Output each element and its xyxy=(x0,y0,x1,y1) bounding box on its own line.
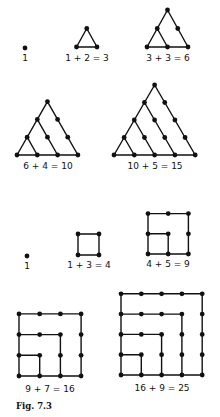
tri-15-dot xyxy=(162,100,167,105)
tri-6-dot xyxy=(145,45,150,50)
sq-9-dot xyxy=(146,211,151,216)
tri-15-dot xyxy=(142,100,147,105)
label-tri-1: 1 xyxy=(22,53,28,63)
label-tri-6: 3 + 3 = 6 xyxy=(146,53,190,63)
sq-25-dot xyxy=(139,291,144,296)
sq-9-dot xyxy=(146,252,151,257)
figure-caption: Fig. 7.3 xyxy=(16,401,52,411)
tri-10-diagonal-3 xyxy=(47,102,77,155)
sq-16-dot xyxy=(17,312,22,317)
sq-9-dot xyxy=(166,211,171,216)
sq-25-dot xyxy=(119,332,124,337)
tri-3-dot xyxy=(74,45,79,50)
tri-15-dot xyxy=(173,153,178,158)
label-tri-3: 1 + 2 = 3 xyxy=(65,53,109,63)
tri-3-diagonal-1 xyxy=(87,29,97,48)
tri-10-dot xyxy=(65,135,70,140)
sq-16-dot xyxy=(58,353,63,358)
sq-25-dot xyxy=(180,373,185,378)
tri-15-dot xyxy=(112,153,117,158)
tri-6-diagonal-1 xyxy=(157,29,167,48)
sq-9-dot xyxy=(166,231,171,236)
tri-15-dot xyxy=(193,153,198,158)
sq-25-dot xyxy=(139,352,144,357)
tri-6-dot xyxy=(186,45,191,50)
sq-25-dot xyxy=(159,332,164,337)
sq-16-dot xyxy=(37,312,42,317)
sq-16-dot xyxy=(37,353,42,358)
sq-25-dot xyxy=(200,332,205,337)
tri-10-dot xyxy=(55,117,60,122)
sq-16-dot xyxy=(79,332,84,337)
sq-25-dot xyxy=(159,352,164,357)
sq-25-dot xyxy=(180,291,185,296)
tri-10-dot xyxy=(45,99,50,104)
sq-16-dot xyxy=(58,374,63,379)
sq-9-dot xyxy=(186,252,191,257)
sq-16-dot xyxy=(37,374,42,379)
tri-3-dot xyxy=(95,45,100,50)
tri-15-dot xyxy=(162,135,167,140)
sq-25-dot xyxy=(180,312,185,317)
label-sq-16: 9 + 7 = 16 xyxy=(25,384,75,394)
sq-25-dot xyxy=(180,332,185,337)
sq-16-dot xyxy=(17,374,22,379)
sq-4-dot xyxy=(97,232,102,237)
tri-15-dot xyxy=(132,153,137,158)
figure-canvas: 1 1 + 2 = 3 3 + 3 = 6 6 + 4 = 10 10 + 5 … xyxy=(0,0,220,417)
sq-4-dot xyxy=(76,232,81,237)
tri-10-dot xyxy=(35,153,40,158)
sq-25-dot xyxy=(139,312,144,317)
tri-10-dot xyxy=(76,153,81,158)
tri-10-dot xyxy=(45,135,50,140)
tri-15-diagonal-3 xyxy=(144,103,174,156)
sq-25-dot xyxy=(200,373,205,378)
sq-4-dot xyxy=(97,253,102,258)
sq-16-dot xyxy=(58,312,63,317)
tri-15-dot xyxy=(173,118,178,123)
sq-16-dot xyxy=(79,374,84,379)
label-sq-9: 4 + 5 = 9 xyxy=(146,259,190,269)
sq-9-dot xyxy=(186,231,191,236)
label-sq-1: 1 xyxy=(24,261,30,271)
tri-15-dot xyxy=(152,118,157,123)
tri-3-dot xyxy=(84,26,89,31)
tri-1-dot xyxy=(23,46,28,51)
shapes-layer xyxy=(15,8,205,379)
sq-16-dot xyxy=(17,332,22,337)
tri-10-dot xyxy=(35,117,40,122)
label-sq-4: 1 + 3 = 4 xyxy=(67,260,111,270)
sq-9-dot xyxy=(146,231,151,236)
tri-15-dot xyxy=(183,135,188,140)
tri-10-diagonal-1 xyxy=(27,137,37,155)
sq-25-dot xyxy=(180,352,185,357)
sq-9-dot xyxy=(186,211,191,216)
tri-15-dot xyxy=(152,153,157,158)
sq-25-dot xyxy=(139,373,144,378)
tri-6-dot xyxy=(165,45,170,50)
tri-15-dot xyxy=(132,118,137,123)
sq-25-dot xyxy=(139,332,144,337)
labels-layer: 1 1 + 2 = 3 3 + 3 = 6 6 + 4 = 10 10 + 5 … xyxy=(16,53,190,411)
sq-25-dot xyxy=(119,291,124,296)
tri-3-left-edge xyxy=(77,29,87,48)
sq-25-dot xyxy=(159,291,164,296)
label-tri-15: 10 + 5 = 15 xyxy=(127,161,182,171)
sq-25-dot xyxy=(119,373,124,378)
tri-15-dot xyxy=(152,83,157,88)
tri-15-diagonal-1 xyxy=(124,138,134,156)
sq-9-dot xyxy=(166,252,171,257)
sq-1-dot xyxy=(25,254,30,259)
sq-25-dot xyxy=(200,291,205,296)
tri-10-dot xyxy=(55,153,60,158)
sq-25-dot xyxy=(119,312,124,317)
sq-25-dot xyxy=(200,352,205,357)
tri-6-dot xyxy=(175,26,180,31)
sq-16-dot xyxy=(79,353,84,358)
sq-25-dot xyxy=(200,312,205,317)
tri-10-dot xyxy=(25,135,30,140)
sq-16-dot xyxy=(37,332,42,337)
sq-4-dot xyxy=(76,253,81,258)
tri-10-dot xyxy=(15,153,20,158)
tri-6-dot xyxy=(165,8,170,13)
